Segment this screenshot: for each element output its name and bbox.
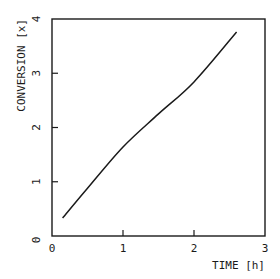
y-tick-label: 3 xyxy=(30,70,43,77)
y-tick-label: 1 xyxy=(30,178,43,185)
x-tick-label: 0 xyxy=(49,242,56,255)
plot-frame xyxy=(52,19,265,236)
x-axis-ticks: 0123 xyxy=(49,230,269,255)
x-tick-label: 2 xyxy=(191,242,198,255)
conversion-curve xyxy=(63,32,237,218)
y-axis-ticks: 01234 xyxy=(30,15,58,243)
y-tick-label: 0 xyxy=(30,237,43,244)
conversion-chart: 0123 01234 TIME [h] CONVERSION [x] xyxy=(0,0,280,279)
x-tick-label: 1 xyxy=(120,242,127,255)
y-axis-label: CONVERSION [x] xyxy=(15,19,28,112)
x-axis-label: TIME [h] xyxy=(212,259,265,272)
x-tick-label: 3 xyxy=(262,242,269,255)
y-tick-label: 2 xyxy=(30,124,43,131)
y-tick-label: 4 xyxy=(30,15,43,22)
